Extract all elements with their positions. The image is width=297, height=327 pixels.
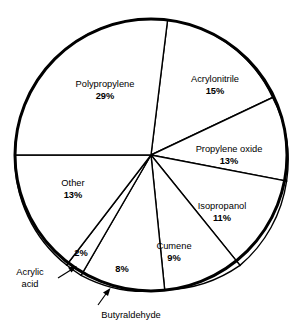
label-other-value: 13% (64, 190, 83, 200)
label-polypropylene-name: Polypropylene (76, 79, 135, 89)
label-acrylonitrile-name: Acrylonitrile (191, 74, 239, 84)
label-isopropanol-value: 11% (213, 213, 232, 223)
label-cumene-value: 9% (167, 253, 181, 263)
label-butyraldehyde-value: 8% (115, 264, 129, 274)
pie-chart: Polypropylene 29% Acrylonitrile 15% Prop… (0, 0, 297, 327)
label-polypropylene-value: 29% (96, 91, 115, 101)
butyraldehyde-arrow-icon (103, 288, 111, 296)
label-butyraldehyde-name: Butyraldehyde (101, 310, 160, 320)
label-acrylic-acid-name: Acrylic acid (16, 267, 44, 289)
label-acrylic-acid-line2: acid (21, 279, 38, 289)
label-propylene-oxide-value: 13% (220, 156, 239, 166)
butyraldehyde-leader (98, 288, 111, 305)
acrylic-acid-leader (58, 266, 77, 278)
label-acrylic-acid-line1: Acrylic (16, 267, 44, 277)
label-propylene-oxide-name: Propylene oxide (196, 144, 263, 154)
pie-chart-svg: Polypropylene 29% Acrylonitrile 15% Prop… (0, 0, 297, 327)
label-acrylic-acid-value: 2% (74, 248, 88, 258)
label-cumene-name: Cumene (156, 241, 191, 251)
label-acrylonitrile-value: 15% (206, 86, 225, 96)
label-isopropanol-name: Isopropanol (198, 201, 247, 211)
label-other-name: Other (61, 178, 84, 188)
